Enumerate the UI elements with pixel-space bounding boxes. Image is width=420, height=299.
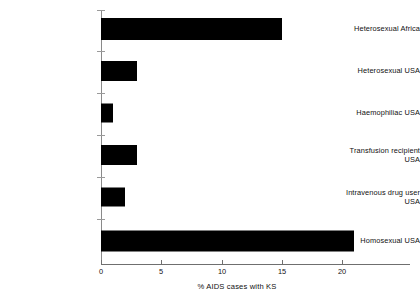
- x-axis-tick: [161, 260, 162, 265]
- x-axis-tick-label-15: 15: [278, 267, 286, 276]
- y-axis-tick: [97, 93, 105, 94]
- x-axis-tick: [282, 260, 283, 265]
- bar-haemophiliac-usa: [101, 104, 113, 123]
- y-axis-tick: [97, 219, 105, 220]
- category-label-homosexual-usa: Homosexual USA: [324, 236, 420, 245]
- category-label-heterosexual-africa: Heterosexual Africa: [324, 24, 420, 33]
- x-axis-tick-label-5: 5: [159, 267, 163, 276]
- x-axis-tick: [342, 260, 343, 265]
- y-axis-tick: [97, 135, 105, 136]
- x-axis-tick: [222, 260, 223, 265]
- bar-chart: Heterosexual Africa Heterosexual USA Hae…: [0, 0, 420, 299]
- bar-heterosexual-africa: [101, 18, 282, 40]
- bar-transfusion-recipient-usa: [101, 145, 137, 165]
- y-axis-tick: [97, 51, 105, 52]
- x-axis-title: % AIDS cases with KS: [0, 282, 420, 291]
- bar-homosexual-usa: [101, 231, 354, 252]
- category-label-heterosexual-usa: Heterosexual USA: [324, 66, 420, 75]
- x-axis-tick-label-20: 20: [338, 267, 346, 276]
- x-axis-tick: [101, 260, 102, 265]
- bar-intravenous-drug-user-usa: [101, 188, 125, 207]
- bar-heterosexual-usa: [101, 61, 137, 81]
- y-axis-line: [101, 10, 102, 264]
- x-axis-tick-label-10: 10: [218, 267, 226, 276]
- y-axis-tick: [97, 10, 105, 11]
- x-axis-tick-label-0: 0: [99, 267, 103, 276]
- category-label-haemophiliac-usa: Haemophiliac USA: [324, 108, 420, 117]
- y-axis-tick: [97, 177, 105, 178]
- x-axis-line: [101, 264, 410, 265]
- category-label-transfusion-recipient-usa: Transfusion recipient USA: [324, 146, 420, 164]
- category-label-intravenous-drug-user-usa: Intravenous drug user USA: [324, 188, 420, 206]
